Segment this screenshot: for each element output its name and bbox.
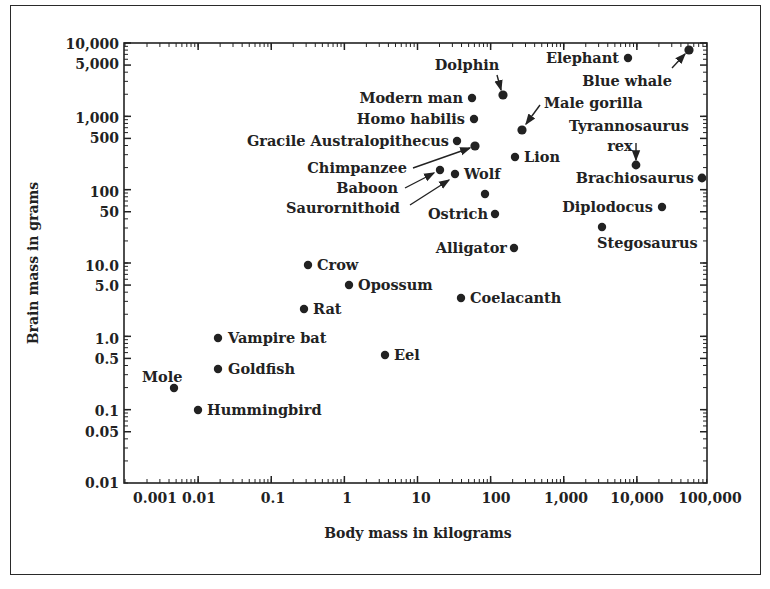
point-homo-habilis — [470, 115, 478, 123]
label-wolf: Wolf — [463, 165, 502, 182]
male-gorilla-arrow — [526, 105, 540, 124]
label-eel: Eel — [394, 346, 420, 363]
y-tick-label: 100 — [90, 184, 119, 200]
y-tick-label: 10,000 — [65, 36, 119, 52]
point-hummingbird — [194, 406, 202, 414]
chimpanzee-arrow — [413, 148, 470, 168]
y-axis-title: Brain mass in grams — [25, 182, 41, 345]
label-vampire-bat: Vampire bat — [227, 329, 327, 346]
point-chimpanzee — [470, 141, 479, 150]
point-coelacanth — [457, 294, 465, 302]
label-homo-habilis: Homo habilis — [357, 110, 465, 127]
label-saurornithoid: Saurornithoid — [286, 199, 400, 216]
point-unlabeled — [481, 190, 489, 198]
y-tick-label: 0.01 — [85, 475, 119, 491]
x-tick-label: 0.1 — [261, 490, 285, 506]
label-gracile-australopithecus: Gracile Australopithecus — [247, 132, 449, 149]
label-alligator: Alligator — [435, 239, 508, 256]
y-tick-label: 5.0 — [95, 278, 120, 294]
y-tick-label: 50 — [100, 204, 120, 220]
label-modern-man: Modern man — [359, 89, 463, 106]
dolphin-arrow — [497, 75, 501, 90]
label-mole: Mole — [142, 368, 182, 385]
label-opossum: Opossum — [358, 276, 433, 293]
x-tick-label: 10 — [411, 490, 431, 506]
point-modern-man — [468, 94, 476, 102]
point-labels: Mole Hummingbird Goldfish Vampire bat Ra… — [142, 49, 698, 418]
label-dolphin: Dolphin — [435, 56, 500, 73]
y-tick-labels: 10,000 5,000 1,000 500 100 50 10.0 5.0 1… — [65, 36, 119, 491]
label-ostrich: Ostrich — [428, 205, 488, 222]
y-tick-label: 1.0 — [95, 331, 120, 347]
point-lion — [511, 153, 519, 161]
point-rat — [300, 305, 308, 313]
label-blue-whale: Blue whale — [582, 72, 672, 89]
point-eel — [381, 351, 389, 359]
y-tick-label: 10.0 — [85, 258, 119, 274]
point-brachiosaurus — [698, 174, 707, 183]
x-tick-label: 1,000 — [544, 490, 588, 506]
label-brachiosaurus: Brachiosaurus — [576, 169, 694, 186]
x-tick-labels: 0.001 0.01 0.1 1 10 100 1,000 10,000 100… — [133, 490, 742, 506]
label-tyrannosaurus: Tyrannosaurus — [569, 117, 689, 134]
point-mole — [170, 384, 178, 392]
point-gracile-australopithecus — [453, 137, 461, 145]
point-blue-whale — [684, 45, 693, 54]
point-goldfish — [214, 365, 222, 373]
y-tick-label: 500 — [90, 130, 119, 146]
label-coelacanth: Coelacanth — [470, 289, 562, 306]
label-stegosaurus: Stegosaurus — [597, 234, 698, 251]
x-tick-label: 0.001 — [133, 490, 177, 506]
point-baboon — [436, 166, 444, 174]
y-tick-label: 0.05 — [85, 424, 119, 440]
label-baboon: Baboon — [336, 179, 398, 196]
x-tick-label: 100 — [481, 490, 510, 506]
y-tick-label: 5,000 — [75, 56, 119, 72]
point-crow — [304, 261, 312, 269]
label-lion: Lion — [524, 148, 560, 165]
point-ostrich — [491, 210, 499, 218]
x-tick-label: 100,000 — [678, 490, 742, 506]
point-stegosaurus — [598, 223, 606, 231]
y-tick-label: 0.5 — [95, 351, 119, 367]
label-crow: Crow — [317, 256, 359, 273]
baboon-arrow — [405, 173, 434, 188]
x-tick-label: 0.01 — [182, 490, 216, 506]
point-opossum — [345, 281, 353, 289]
label-rat: Rat — [313, 300, 342, 317]
x-axis-title: Body mass in kilograms — [324, 525, 512, 541]
point-vampire-bat — [214, 334, 222, 342]
blue-whale-arrow — [672, 54, 685, 68]
label-elephant: Elephant — [546, 49, 619, 66]
label-goldfish: Goldfish — [228, 360, 295, 377]
saurornithoid-arrow — [410, 180, 449, 205]
label-chimpanzee: Chimpanzee — [307, 159, 407, 176]
scatter-plot: 0.001 0.01 0.1 1 10 100 1,000 10,000 100… — [0, 0, 770, 589]
y-tick-label: 0.1 — [95, 403, 119, 419]
x-tick-label: 10,000 — [610, 490, 664, 506]
point-wolf — [451, 170, 459, 178]
label-rex: rex — [607, 137, 633, 154]
point-male-gorilla — [517, 125, 526, 134]
label-diplodocus: Diplodocus — [562, 198, 653, 215]
label-male-gorilla: Male gorilla — [544, 94, 643, 111]
point-elephant — [624, 54, 632, 62]
label-hummingbird: Hummingbird — [207, 401, 322, 418]
point-diplodocus — [658, 203, 666, 211]
y-tick-label: 1,000 — [75, 110, 119, 126]
x-tick-label: 1 — [342, 490, 352, 506]
point-dolphin — [498, 90, 507, 99]
point-alligator — [510, 244, 518, 252]
